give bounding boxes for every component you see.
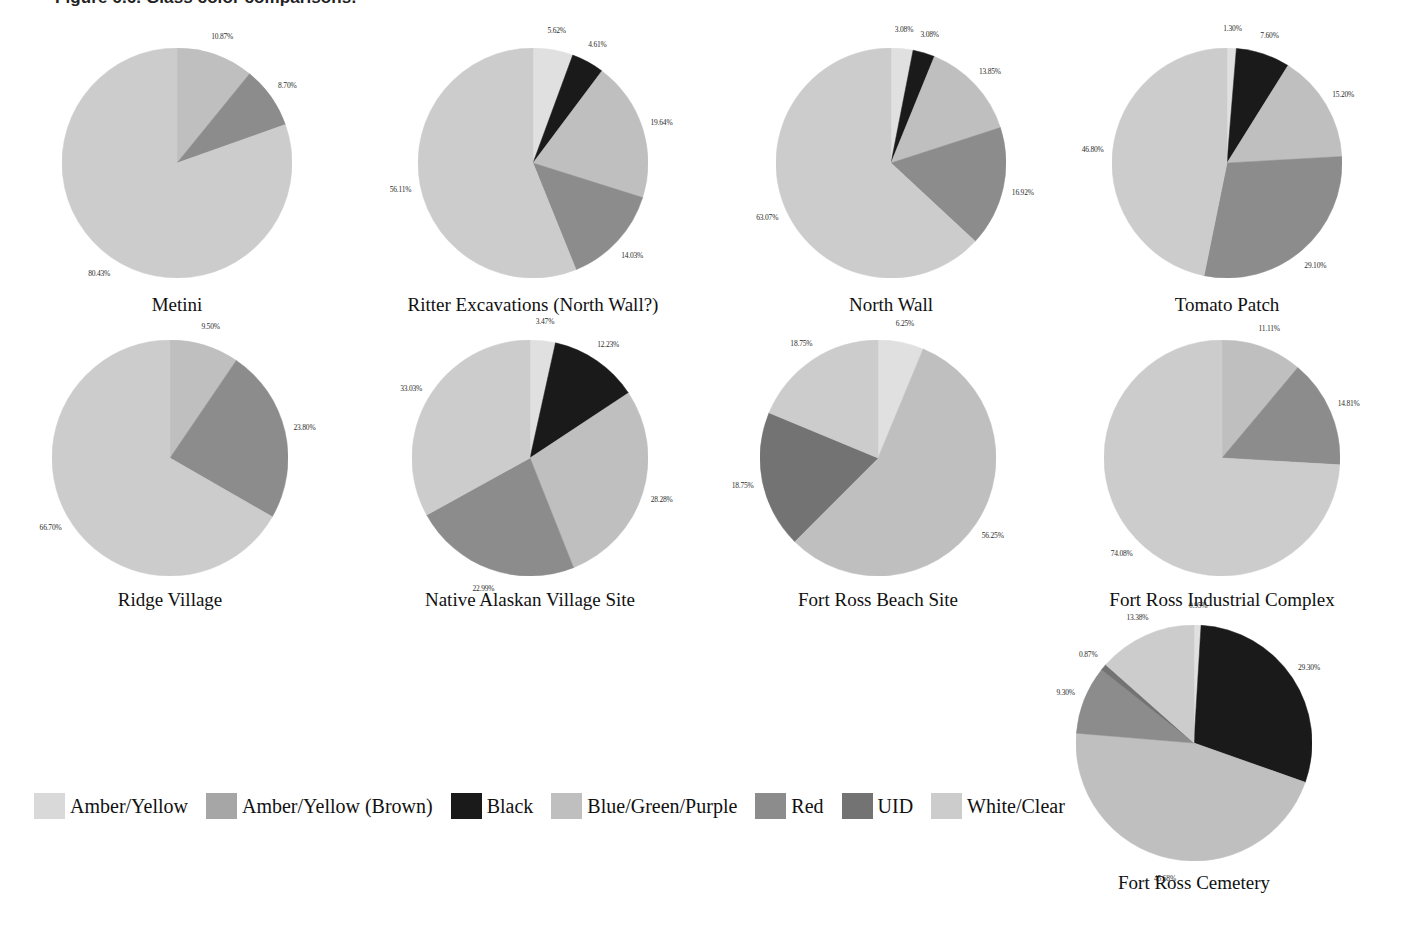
- pie-slice-label: 9.30%: [1057, 688, 1075, 697]
- pie-slice-label: 9.50%: [201, 322, 219, 331]
- legend-label: Blue/Green/Purple: [587, 795, 737, 818]
- pie-slice-label: 23.80%: [294, 423, 316, 432]
- pie-chart-title: Fort Ross Cemetery: [1118, 872, 1270, 894]
- pie-slice-label: 10.87%: [211, 31, 233, 40]
- pie-chart-ritter-excavations-north-wall: 5.62%4.61%19.64%14.03%56.11%Ritter Excav…: [418, 48, 648, 278]
- legend-item-white-clear: White/Clear: [931, 793, 1065, 819]
- legend-item-blue-green-purple: Blue/Green/Purple: [551, 793, 737, 819]
- pie-slice-label: 15.20%: [1332, 90, 1354, 99]
- legend-label: Amber/Yellow (Brown): [242, 795, 433, 818]
- pie-chart-title: Native Alaskan Village Site: [425, 589, 635, 611]
- pie-chart-title: North Wall: [849, 294, 933, 316]
- chart-legend: Amber/YellowAmber/Yellow (Brown)BlackBlu…: [34, 793, 1083, 819]
- pie-slice-label: 56.11%: [390, 184, 412, 193]
- pie-chart-title: Ridge Village: [118, 589, 223, 611]
- pie-graphic: 0.95%29.30%45.68%9.30%0.87%13.38%: [1076, 625, 1312, 861]
- legend-swatch-icon: [451, 793, 482, 819]
- legend-item-uid: UID: [842, 793, 914, 819]
- legend-item-black: Black: [451, 793, 534, 819]
- pie-chart-metini: 10.87%8.70%80.43%Metini: [62, 48, 292, 278]
- pie-slice-label: 8.70%: [278, 81, 296, 90]
- legend-swatch-icon: [551, 793, 582, 819]
- pie-graphic: 11.11%14.81%74.08%: [1104, 340, 1340, 576]
- pie-chart-title: Fort Ross Industrial Complex: [1109, 589, 1334, 611]
- pie-graphic: 10.87%8.70%80.43%: [62, 48, 292, 278]
- pie-slice-label: 13.85%: [979, 67, 1001, 76]
- legend-item-red: Red: [755, 793, 823, 819]
- legend-item-amber-yellow-brown: Amber/Yellow (Brown): [206, 793, 433, 819]
- pie-slice-label: 3.08%: [920, 29, 938, 38]
- pie-slice-label: 3.08%: [895, 24, 913, 33]
- pie-slice-label: 29.30%: [1298, 662, 1320, 671]
- legend-swatch-icon: [755, 793, 786, 819]
- pie-slice-label: 1.30%: [1223, 24, 1241, 33]
- pie-chart-north-wall: 3.08%3.08%13.85%16.92%63.07%North Wall: [776, 48, 1006, 278]
- pie-slice-label: 74.08%: [1111, 548, 1133, 557]
- legend-item-amber-yellow: Amber/Yellow: [34, 793, 188, 819]
- pie-chart-fort-ross-cemetery: 0.95%29.30%45.68%9.30%0.87%13.38%Fort Ro…: [1076, 625, 1312, 861]
- pie-chart-fort-ross-industrial-complex: 11.11%14.81%74.08%Fort Ross Industrial C…: [1104, 340, 1340, 576]
- pie-chart-title: Ritter Excavations (North Wall?): [408, 294, 659, 316]
- pie-chart-native-alaskan-village-site: 3.47%12.23%28.28%22.99%33.03%Native Alas…: [412, 340, 648, 576]
- pie-slice-label: 11.11%: [1259, 324, 1280, 333]
- legend-label: Black: [487, 795, 534, 818]
- pie-chart-title: Fort Ross Beach Site: [798, 589, 958, 611]
- pie-slice-label: 7.60%: [1260, 30, 1278, 39]
- legend-label: White/Clear: [967, 795, 1065, 818]
- pie-slice-label: 4.61%: [588, 40, 606, 49]
- pie-chart-fort-ross-beach-site: 6.25%56.25%18.75%18.75%Fort Ross Beach S…: [760, 340, 996, 576]
- pie-slice-label: 63.07%: [756, 212, 778, 221]
- pie-slice-label: 18.75%: [732, 480, 754, 489]
- pie-slice-label: 16.92%: [1012, 188, 1034, 197]
- pie-slice-label: 56.25%: [982, 530, 1004, 539]
- pie-slice-white-clear: [1112, 48, 1227, 276]
- pie-chart-ridge-village: 9.50%23.80%66.70%Ridge Village: [52, 340, 288, 576]
- pie-slice-label: 29.10%: [1304, 261, 1326, 270]
- pie-slice-label: 0.95%: [1189, 601, 1207, 610]
- pie-graphic: 1.30%7.60%15.20%29.10%46.80%: [1112, 48, 1342, 278]
- pie-graphic: 6.25%56.25%18.75%18.75%: [760, 340, 996, 576]
- pie-slice-label: 5.62%: [548, 26, 566, 35]
- legend-label: Amber/Yellow: [70, 795, 188, 818]
- legend-swatch-icon: [206, 793, 237, 819]
- pie-slice-label: 13.38%: [1126, 613, 1148, 622]
- pie-slice-label: 80.43%: [88, 269, 110, 278]
- pie-slice-label: 28.28%: [651, 495, 673, 504]
- legend-swatch-icon: [34, 793, 65, 819]
- pie-slice-label: 33.03%: [400, 383, 422, 392]
- pie-slice-label: 14.03%: [621, 250, 643, 259]
- pie-graphic: 9.50%23.80%66.70%: [52, 340, 288, 576]
- pie-chart-title: Metini: [152, 294, 203, 316]
- pie-graphic: 3.47%12.23%28.28%22.99%33.03%: [412, 340, 648, 576]
- pie-slice-label: 3.47%: [536, 316, 554, 325]
- pie-slice-label: 46.80%: [1082, 145, 1104, 154]
- legend-swatch-icon: [931, 793, 962, 819]
- pie-slice-label: 0.87%: [1079, 650, 1097, 659]
- pie-graphic: 3.08%3.08%13.85%16.92%63.07%: [776, 48, 1006, 278]
- pie-graphic: 5.62%4.61%19.64%14.03%56.11%: [418, 48, 648, 278]
- pie-chart-tomato-patch: 1.30%7.60%15.20%29.10%46.80%Tomato Patch: [1112, 48, 1342, 278]
- legend-label: UID: [878, 795, 914, 818]
- pie-slice-label: 6.25%: [896, 318, 914, 327]
- pie-slice-label: 19.64%: [651, 117, 673, 126]
- pie-chart-title: Tomato Patch: [1175, 294, 1280, 316]
- legend-label: Red: [791, 795, 823, 818]
- pie-slice-label: 14.81%: [1338, 399, 1360, 408]
- pie-slice-label: 66.70%: [40, 523, 62, 532]
- legend-swatch-icon: [842, 793, 873, 819]
- pie-slice-label: 18.75%: [790, 339, 812, 348]
- pie-slice-label: 12.23%: [597, 340, 619, 349]
